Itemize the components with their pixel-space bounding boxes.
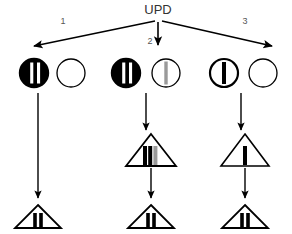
circle-body xyxy=(112,59,140,87)
triangle-body xyxy=(128,205,174,228)
branch-3-circle-empty xyxy=(249,59,277,87)
branch-1-group xyxy=(15,59,85,228)
branch-1-triangle-two-dark-bars xyxy=(15,205,61,228)
triangle-bar-1 xyxy=(240,213,244,227)
branch-2-group xyxy=(112,59,180,228)
triangle-bar-1 xyxy=(243,146,247,165)
branch-3-circle-light-one-dark-bar xyxy=(210,59,238,87)
triangle-bar-2 xyxy=(152,213,156,227)
circle-bar-gap-1 xyxy=(122,63,125,84)
branch-number-1: 1 xyxy=(60,16,65,26)
circle-bar-gap-1 xyxy=(30,63,33,84)
triangle-bar-1 xyxy=(33,213,37,227)
triangle-bar-1 xyxy=(146,213,150,227)
triangle-body xyxy=(222,205,268,228)
branch-3-triangle-two-dark-bars xyxy=(222,205,268,228)
branch-1-circle-filled-two-bars xyxy=(20,59,48,87)
circle-body xyxy=(249,59,277,87)
triangle-bar-3 xyxy=(153,146,157,165)
branch-arrow-1 xyxy=(34,21,155,46)
triangle-bar-2 xyxy=(148,146,152,165)
root-label: UPD xyxy=(144,2,171,17)
triangle-bar-1 xyxy=(143,146,147,165)
triangle-bar-2 xyxy=(39,213,43,227)
upd-mechanism-diagram: UPD 1 2 3 xyxy=(0,0,292,234)
branch-2-circle-light-one-gray-bar xyxy=(152,59,180,87)
branch-3-triangle-one-dark-bar xyxy=(221,134,269,166)
branch-arrow-3 xyxy=(162,21,272,46)
circle-bar-gap-2 xyxy=(129,63,132,84)
circle-body xyxy=(57,59,85,87)
branch-2-triangle-three-bars xyxy=(126,134,176,166)
root-branch-arrows xyxy=(34,21,272,46)
diagram-canvas: UPD 1 2 3 xyxy=(0,0,292,234)
circle-bar-1 xyxy=(222,62,226,84)
circle-body xyxy=(20,59,48,87)
branch-number-3: 3 xyxy=(242,16,247,26)
branch-3-group xyxy=(210,59,277,228)
branch-2-triangle-two-dark-bars xyxy=(128,205,174,228)
branch-number-2: 2 xyxy=(147,36,152,46)
triangle-body xyxy=(15,205,61,228)
branch-1-circle-empty xyxy=(57,59,85,87)
circle-bar-gap-2 xyxy=(37,63,40,84)
branch-2-circle-filled-two-bars xyxy=(112,59,140,87)
triangle-bar-2 xyxy=(246,213,250,227)
circle-bar-1 xyxy=(164,62,167,85)
